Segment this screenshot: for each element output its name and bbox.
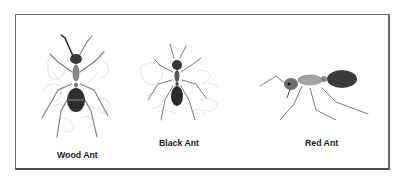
- wood-ant-label: Wood Ant: [57, 149, 98, 160]
- red-ant-label: Red Ant: [305, 137, 338, 148]
- red-ant-figure: [260, 70, 368, 120]
- black-ant-label: Black Ant: [159, 137, 199, 148]
- black-ant-figure: [148, 44, 206, 120]
- wood-ant-figure: [42, 35, 108, 137]
